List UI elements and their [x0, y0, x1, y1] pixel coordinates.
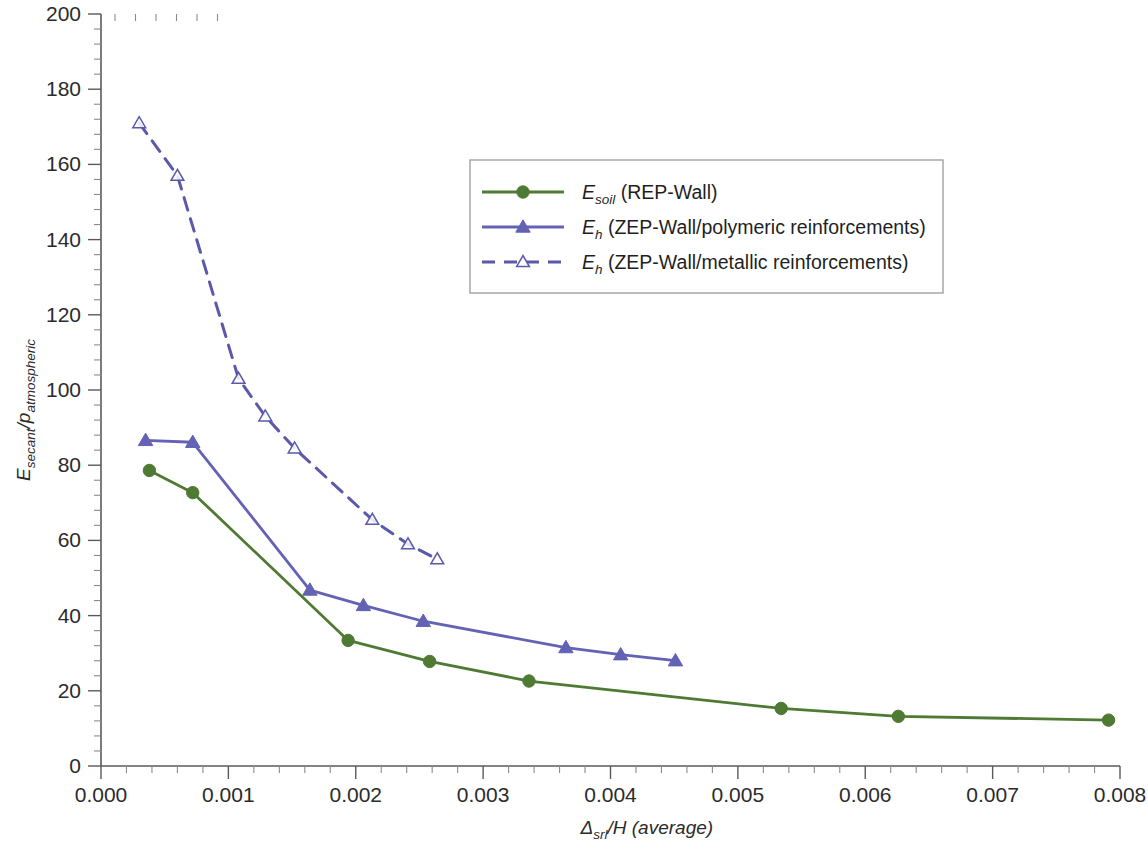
y-axis-title: Esecant/patmospheric	[13, 339, 38, 481]
series-0-markers	[143, 464, 1115, 726]
y-tick-label: 120	[46, 303, 81, 326]
data-point-circle	[143, 464, 155, 476]
x-tick-label: 0.006	[839, 783, 892, 806]
series-line	[149, 470, 1108, 720]
x-tick-label: 0.001	[202, 783, 255, 806]
y-tick-label: 100	[46, 378, 81, 401]
x-tick-label: 0.003	[457, 783, 510, 806]
data-point-circle	[517, 186, 529, 198]
chart-canvas: 0204060801001201401601802000.0000.0010.0…	[0, 0, 1148, 846]
data-point-triangle-open	[171, 169, 184, 180]
x-tick-label: 0.002	[329, 783, 382, 806]
series-line	[139, 123, 437, 559]
y-tick-label: 180	[46, 77, 81, 100]
data-point-circle	[523, 675, 535, 687]
series-0	[149, 470, 1108, 720]
y-tick-label: 200	[46, 2, 81, 25]
series-1-markers	[138, 433, 682, 666]
y-tick-label: 20	[58, 679, 81, 702]
data-point-triangle-open	[431, 553, 444, 564]
y-tick-label: 160	[46, 152, 81, 175]
y-tick-label: 80	[58, 453, 81, 476]
x-axis-ticks: 0.0000.0010.0020.0030.0040.0050.0060.007…	[75, 766, 1147, 806]
top-edge-ticks	[115, 14, 218, 21]
y-tick-label: 0	[69, 754, 81, 777]
data-point-circle	[423, 655, 435, 667]
y-tick-label: 140	[46, 228, 81, 251]
data-point-circle	[1102, 714, 1114, 726]
x-tick-label: 0.008	[1094, 783, 1147, 806]
y-tick-label: 60	[58, 528, 81, 551]
data-point-triangle-open	[232, 372, 245, 383]
x-tick-label: 0.004	[584, 783, 637, 806]
chart-figure: 0204060801001201401601802000.0000.0010.0…	[0, 0, 1148, 846]
x-tick-label: 0.007	[966, 783, 1019, 806]
y-axis-ticks: 020406080100120140160180200	[46, 2, 101, 777]
x-tick-label: 0.005	[712, 783, 765, 806]
data-point-circle	[187, 486, 199, 498]
series-line	[146, 440, 676, 660]
data-point-circle	[892, 710, 904, 722]
data-point-circle	[775, 702, 787, 714]
series-1	[146, 440, 676, 660]
y-tick-label: 40	[58, 604, 81, 627]
data-point-circle	[342, 634, 354, 646]
x-axis-title: Δsrl/H (average)	[580, 817, 714, 842]
series-2	[139, 123, 437, 559]
x-tick-label: 0.000	[75, 783, 128, 806]
data-point-triangle-open	[133, 117, 146, 128]
